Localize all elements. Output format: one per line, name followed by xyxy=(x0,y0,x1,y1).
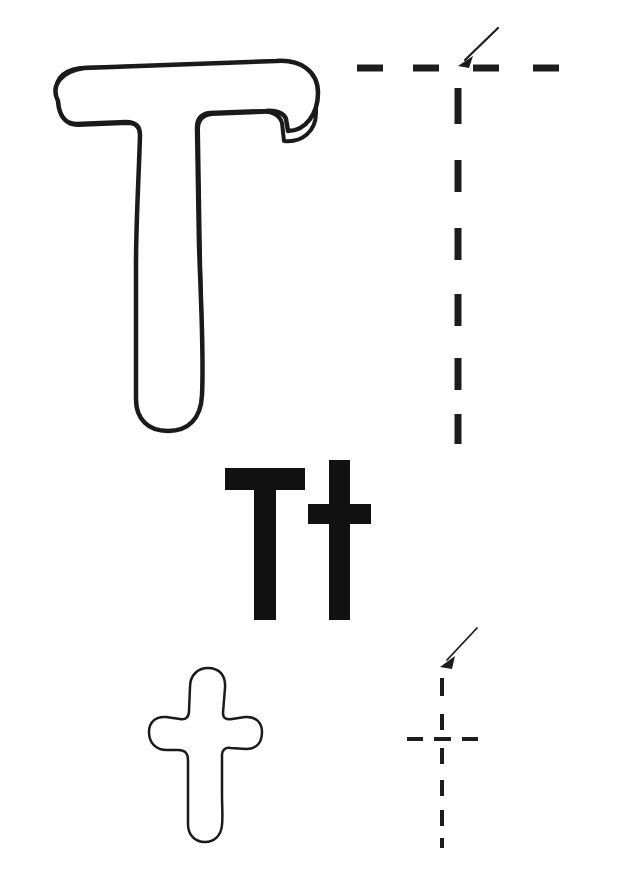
outline-letter-t-glyph xyxy=(145,665,270,845)
bold-letter-t xyxy=(308,460,371,620)
dashed-guide-t xyxy=(385,620,505,850)
dashed-guide-T xyxy=(345,20,625,450)
outline-letter-T-glyph xyxy=(40,55,330,455)
worksheet-page xyxy=(0,0,633,885)
start-arrow-icon xyxy=(458,28,498,68)
bold-letters-Tt-glyph xyxy=(215,460,405,630)
dashed-guide-t-glyph xyxy=(385,620,505,850)
dashed-guide-T-glyph xyxy=(345,20,625,450)
bold-letters-Tt xyxy=(215,460,405,630)
bold-letter-T xyxy=(225,468,305,620)
outline-letter-T xyxy=(40,55,330,455)
start-arrow-icon xyxy=(440,628,477,669)
outline-letter-t xyxy=(145,665,270,845)
